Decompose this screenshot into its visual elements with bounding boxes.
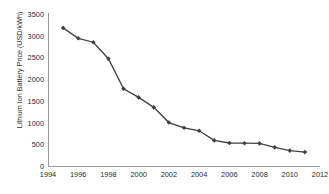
data-point-marker <box>257 141 262 146</box>
data-point-marker <box>227 141 232 146</box>
data-point-marker <box>182 125 187 130</box>
line-chart: Lithium Ion Battery Price (USD/kWh) 0500… <box>0 0 329 194</box>
series-polyline <box>63 28 305 152</box>
data-series-line <box>0 0 329 194</box>
data-point-marker <box>272 145 277 150</box>
data-point-marker <box>287 148 292 153</box>
data-point-marker <box>242 141 247 146</box>
data-point-marker <box>303 150 308 155</box>
